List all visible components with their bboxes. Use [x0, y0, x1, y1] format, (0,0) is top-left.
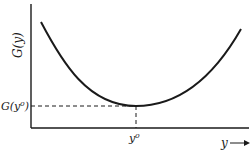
min-value-label: G(y⁰): [1, 100, 29, 113]
arrow-right-icon: [230, 140, 250, 146]
x-axis-label: y: [220, 136, 228, 150]
y-axis-label: G(y): [11, 32, 25, 58]
convex-function-diagram: G(y) G(y⁰) y⁰ y: [0, 0, 251, 152]
convex-curve: [41, 22, 241, 106]
minimizer-label: y⁰: [128, 132, 140, 145]
